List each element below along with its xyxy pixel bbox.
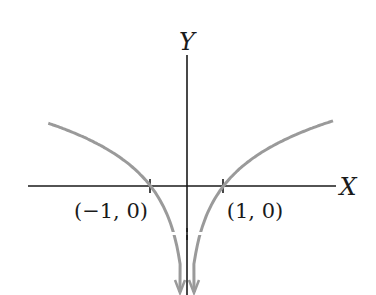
x-axis-label: X [337,173,357,201]
y-axis-label: Y [179,28,197,56]
curve-gap [160,232,220,235]
point-label-neg-one: (−1, 0) [74,199,148,223]
ln-abs-x-graph: Y X (−1, 0) (1, 0) [0,0,376,295]
point-label-pos-one: (1, 0) [227,199,283,223]
